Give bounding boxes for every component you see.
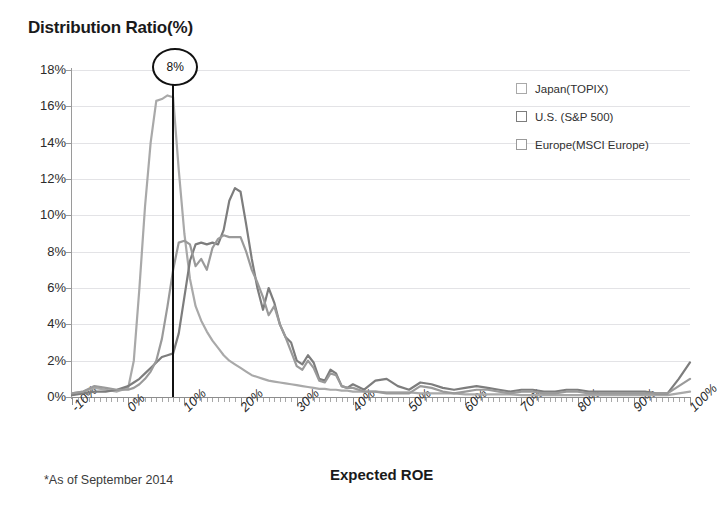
- y-tick-mark: [66, 179, 72, 180]
- series-lines: [0, 0, 720, 512]
- legend-item-label: Japan(TOPIX): [535, 83, 608, 95]
- legend-item-label: U.S. (S&P 500): [535, 111, 613, 123]
- legend-item[interactable]: Japan(TOPIX): [516, 78, 649, 99]
- callout-label: 8%: [166, 60, 183, 74]
- legend-swatch-icon: [516, 111, 527, 122]
- y-tick-mark: [66, 288, 72, 289]
- legend-swatch-icon: [516, 83, 527, 94]
- legend-item[interactable]: U.S. (S&P 500): [516, 106, 649, 127]
- x-axis-title: Expected ROE: [330, 466, 433, 483]
- footnote: *As of September 2014: [44, 473, 173, 487]
- y-tick-mark: [66, 215, 72, 216]
- y-tick-mark: [66, 361, 72, 362]
- legend: Japan(TOPIX)U.S. (S&P 500)Europe(MSCI Eu…: [516, 78, 649, 162]
- callout-bubble: 8%: [152, 48, 198, 86]
- y-tick-mark: [66, 397, 72, 398]
- y-tick-mark: [66, 143, 72, 144]
- y-tick-mark: [66, 252, 72, 253]
- legend-item-label: Europe(MSCI Europe): [535, 139, 649, 151]
- legend-item[interactable]: Europe(MSCI Europe): [516, 134, 649, 155]
- chart-container: Distribution Ratio(%) 0%2%4%6%8%10%12%14…: [0, 0, 720, 512]
- callout-line: [172, 80, 174, 397]
- series-line: [72, 188, 690, 395]
- y-tick-mark: [66, 106, 72, 107]
- y-tick-mark: [66, 70, 72, 71]
- series-line: [72, 235, 690, 393]
- legend-swatch-icon: [516, 139, 527, 150]
- y-tick-mark: [66, 324, 72, 325]
